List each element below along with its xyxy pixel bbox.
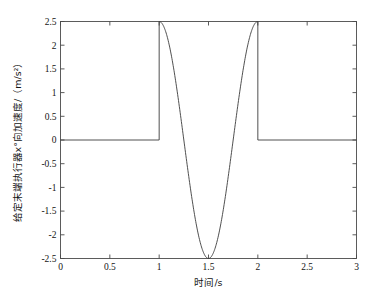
y-tick-label: -0.5	[41, 159, 56, 169]
x-tick-label: 3	[354, 262, 359, 272]
y-tick-label: 1	[52, 88, 57, 98]
y-tick-label: 2.5	[45, 17, 57, 27]
x-axis-title: 时间/s	[194, 277, 222, 288]
chart-figure: 00.511.522.53 -2.5-2-1.5-1-0.500.511.522…	[0, 0, 370, 304]
y-tick-label: -1.5	[41, 206, 56, 216]
acceleration-line-chart: 00.511.522.53 -2.5-2-1.5-1-0.500.511.522…	[0, 0, 370, 304]
y-axis-tick-labels: -2.5-2-1.5-1-0.500.511.522.5	[41, 17, 56, 264]
x-tick-label: 1	[157, 262, 162, 272]
y-tick-label: -1	[49, 183, 57, 193]
y-tick-label: 0	[52, 135, 57, 145]
y-axis-title: 给定末端执行器x°向加速度/（m/s²）	[12, 58, 23, 223]
x-tick-label: 2	[255, 262, 260, 272]
x-axis-tick-labels: 00.511.522.53	[58, 262, 359, 272]
y-tick-label: -2.5	[41, 254, 56, 264]
x-tick-label: 0.5	[104, 262, 116, 272]
y-tick-label: 1.5	[45, 64, 57, 74]
y-tick-label: -2	[49, 230, 57, 240]
y-tick-label: 2	[52, 41, 57, 51]
acceleration-curve	[61, 22, 357, 259]
y-tick-label: 0.5	[45, 112, 57, 122]
x-tick-label: 2.5	[301, 262, 313, 272]
x-tick-label: 1.5	[203, 262, 215, 272]
x-tick-label: 0	[58, 262, 63, 272]
data-series-group	[61, 22, 357, 259]
